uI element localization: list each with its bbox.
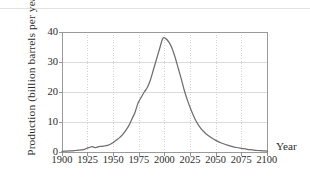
x-axis-title: Year [276, 140, 297, 152]
oil-production-figure: Production (billion barrels per year) 40… [0, 0, 310, 194]
x-tick-label: 2100 [247, 154, 287, 166]
x-tick-labels: 1900 1925 1950 1975 2000 2025 2050 2075 … [0, 154, 310, 168]
axis-tick-marks [59, 32, 268, 156]
